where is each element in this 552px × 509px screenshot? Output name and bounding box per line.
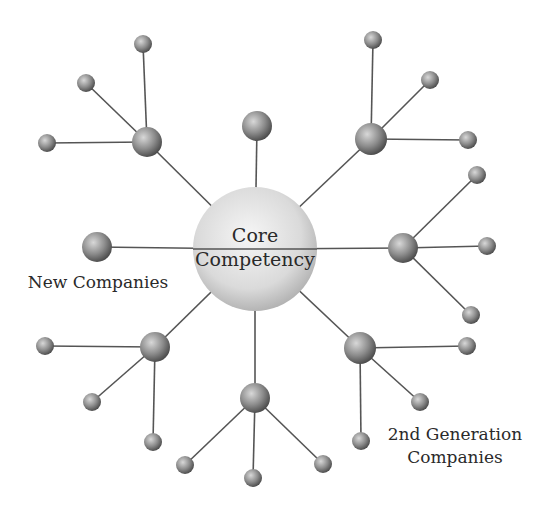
- connector-right-sat-0: [403, 175, 477, 248]
- satellite-node-upper-left-1: [77, 74, 95, 92]
- satellite-node-lower-left-0: [36, 337, 54, 355]
- core-label-line1: Core: [232, 224, 278, 246]
- hub-node-bottom: [240, 383, 270, 413]
- satellite-node-upper-right-1: [421, 71, 439, 89]
- satellite-node-lower-left-2: [144, 433, 162, 451]
- satellite-node-upper-left-2: [38, 134, 56, 152]
- second-gen-label-line1: 2nd Generation: [388, 424, 522, 444]
- hub-node-lower-right: [344, 332, 376, 364]
- connector-upper-left-sat-2: [47, 142, 147, 143]
- satellite-node-upper-right-0: [364, 31, 382, 49]
- satellite-node-bottom-1: [244, 469, 262, 487]
- satellite-node-right-0: [468, 166, 486, 184]
- satellite-node-lower-right-2: [352, 432, 370, 450]
- second-gen-label-line2: Companies: [407, 447, 503, 467]
- hub-node-top: [242, 111, 272, 141]
- satellite-node-upper-right-2: [459, 131, 477, 149]
- new-companies-label: New Companies: [28, 272, 168, 292]
- hub-node-upper-left: [132, 127, 162, 157]
- hub-node-upper-right: [355, 123, 387, 155]
- core-label-line2: Competency: [195, 248, 315, 270]
- hub-node-right: [388, 233, 418, 263]
- hub-node-lower-left: [140, 332, 170, 362]
- connector-lower-right-sat-0: [360, 346, 467, 348]
- hub-node-left: [82, 232, 112, 262]
- satellite-node-right-1: [478, 237, 496, 255]
- connector-lower-left-sat-0: [45, 346, 155, 347]
- satellite-node-right-2: [462, 306, 480, 324]
- satellite-node-lower-right-0: [458, 337, 476, 355]
- satellite-node-bottom-2: [314, 455, 332, 473]
- satellite-node-lower-left-1: [83, 393, 101, 411]
- core-competency-diagram: Core Competency New Companies 2nd Genera…: [0, 0, 552, 509]
- satellite-node-upper-left-0: [134, 35, 152, 53]
- satellite-node-lower-right-1: [411, 393, 429, 411]
- satellite-node-bottom-0: [176, 456, 194, 474]
